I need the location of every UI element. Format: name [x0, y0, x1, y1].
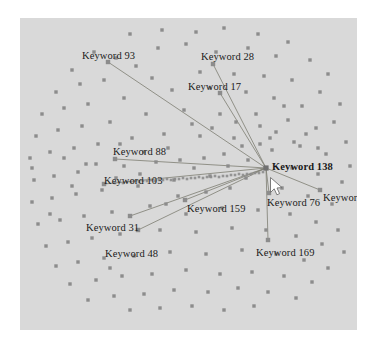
node-label-keyword-138[interactable]: Keyword 138 — [272, 162, 333, 173]
graph-node — [298, 144, 301, 147]
graph-node — [62, 106, 65, 109]
graph-node-labeled[interactable] — [266, 238, 270, 242]
graph-node — [74, 192, 77, 195]
graph-node — [348, 164, 351, 167]
graph-node — [194, 177, 197, 180]
node-label-keyword-48[interactable]: Keyword 48 — [105, 249, 158, 260]
node-label-keyword-93[interactable]: Keyword 93 — [82, 51, 135, 62]
graph-node — [128, 32, 131, 35]
graph-node — [234, 174, 237, 177]
graph-node — [164, 202, 167, 205]
graph-node — [44, 244, 47, 247]
graph-node-labeled[interactable] — [267, 191, 271, 195]
graph-node — [148, 204, 151, 207]
graph-node — [204, 252, 207, 255]
graph-node — [308, 58, 311, 61]
graph-node — [178, 178, 181, 181]
graph-node — [82, 214, 85, 217]
graph-node — [254, 172, 257, 175]
graph-node — [226, 175, 229, 178]
node-label-keyword-159[interactable]: Keyword 159 — [187, 204, 246, 215]
graph-node — [344, 140, 347, 143]
graph-node — [206, 176, 209, 179]
graph-node — [62, 156, 65, 159]
graph-node — [332, 120, 335, 123]
graph-node — [294, 234, 297, 237]
graph-node — [34, 134, 37, 137]
graph-node — [120, 274, 123, 277]
graph-node — [160, 28, 163, 31]
graph-node-labeled[interactable] — [318, 188, 322, 192]
graph-node — [128, 308, 131, 311]
graph-node — [56, 128, 59, 131]
graph-node — [258, 124, 261, 127]
graph-node — [198, 134, 201, 137]
node-label-keyword-31[interactable]: Keyword 31 — [86, 223, 139, 234]
graph-node — [182, 177, 185, 180]
graph-node — [154, 160, 157, 163]
graph-node — [58, 218, 61, 221]
graph-node — [336, 228, 339, 231]
graph-node — [100, 188, 103, 191]
graph-node — [172, 288, 175, 291]
graph-node-labeled[interactable] — [128, 214, 132, 218]
graph-node — [186, 178, 189, 181]
graph-node — [340, 180, 343, 183]
node-label-keyword-103[interactable]: Keyword 103 — [104, 176, 163, 187]
graph-node — [286, 118, 289, 121]
graph-node — [318, 90, 321, 93]
graph-node — [166, 146, 169, 149]
graph-node — [198, 176, 201, 179]
graph-node — [202, 177, 205, 180]
graph-node — [70, 68, 73, 71]
graph-node — [30, 166, 33, 169]
graph-node — [86, 102, 89, 105]
graph-node — [258, 172, 261, 175]
graph-node — [238, 173, 241, 176]
graph-node — [70, 184, 73, 187]
graph-node — [240, 144, 243, 147]
graph-node — [72, 146, 75, 149]
plot-area: Keyword 93Keyword 28Keyword 17Keyword 88… — [20, 18, 357, 330]
node-label-keyword-17[interactable]: Keyword 17 — [188, 82, 241, 93]
graph-node — [338, 102, 341, 105]
graph-node — [176, 194, 179, 197]
hub-node-marker[interactable] — [263, 165, 268, 170]
graph-node — [256, 208, 259, 211]
graph-node — [240, 248, 243, 251]
graph-node — [342, 250, 345, 253]
graph-node — [218, 112, 221, 115]
graph-node — [190, 122, 193, 125]
graph-node — [30, 200, 33, 203]
node-label-keyword-108[interactable]: Keyword 108 — [323, 193, 357, 204]
graph-node — [96, 142, 99, 145]
graph-node — [314, 126, 317, 129]
graph-node — [144, 112, 147, 115]
graph-node — [122, 96, 125, 99]
graph-node — [300, 104, 303, 107]
graph-node — [86, 298, 89, 301]
graph-node — [190, 177, 193, 180]
node-label-keyword-88[interactable]: Keyword 88 — [113, 147, 166, 158]
graph-node — [66, 240, 69, 243]
graph-node — [108, 120, 111, 123]
node-label-keyword-76[interactable]: Keyword 76 — [267, 198, 320, 209]
graph-node — [68, 282, 71, 285]
graph-node — [32, 178, 35, 181]
graph-node — [282, 104, 285, 107]
graph-node — [214, 175, 217, 178]
graph-node — [184, 268, 187, 271]
graph-node — [230, 226, 233, 229]
graph-node — [266, 290, 269, 293]
node-label-keyword-28[interactable]: Keyword 28 — [201, 52, 254, 63]
graph-node — [184, 42, 187, 45]
graph-edge — [220, 93, 266, 168]
graph-node — [316, 146, 319, 149]
graph-node — [326, 266, 329, 269]
graph-node — [234, 120, 237, 123]
graph-node-labeled[interactable] — [183, 198, 187, 202]
graph-edge — [213, 64, 266, 168]
node-label-keyword-169[interactable]: Keyword 169 — [256, 248, 315, 259]
graph-node — [156, 46, 159, 49]
graph-node — [166, 178, 169, 181]
